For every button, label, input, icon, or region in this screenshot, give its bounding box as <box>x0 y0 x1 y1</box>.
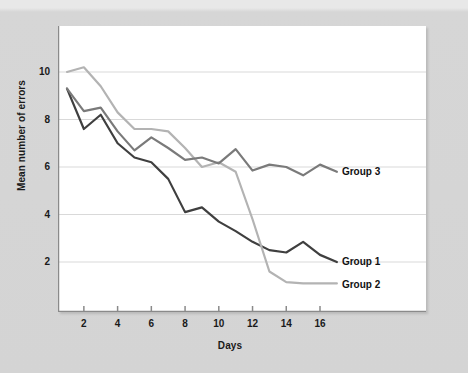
x-axis-title: Days <box>180 340 280 351</box>
series-line-group-2 <box>67 67 337 283</box>
y-tick-label: 4 <box>28 209 50 220</box>
y-tick-label: 2 <box>28 256 50 267</box>
y-tick-label: 10 <box>28 66 50 77</box>
x-tick-label: 14 <box>276 318 296 329</box>
series-line-group-1 <box>67 89 337 262</box>
y-tick-label: 8 <box>28 114 50 125</box>
x-tick-label: 6 <box>141 318 161 329</box>
x-tick-label: 16 <box>310 318 330 329</box>
series-label: Group 1 <box>342 256 380 267</box>
series-label: Group 3 <box>342 166 380 177</box>
x-tick-label: 2 <box>74 318 94 329</box>
x-tick-label: 12 <box>243 318 263 329</box>
series-line-group-3 <box>67 89 337 176</box>
series-label: Group 2 <box>342 279 380 290</box>
x-tick-label: 10 <box>209 318 229 329</box>
y-tick-label: 6 <box>28 161 50 172</box>
x-tick-label: 8 <box>175 318 195 329</box>
chart-figure: Mean number of errors Days 2468102468101… <box>0 0 468 373</box>
y-axis-title: Mean number of errors <box>16 71 27 201</box>
x-tick-label: 4 <box>108 318 128 329</box>
